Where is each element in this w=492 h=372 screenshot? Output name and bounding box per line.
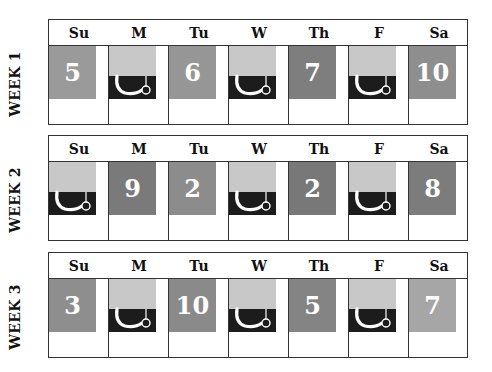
- day-header: Sa: [409, 136, 469, 161]
- day-cell: [109, 46, 169, 124]
- day-cell: [229, 46, 289, 124]
- day-header: W: [229, 20, 289, 45]
- day-cell: 5: [289, 279, 349, 357]
- week-label: WEEK 2: [0, 160, 30, 240]
- number-square: 2: [289, 162, 336, 215]
- day-cell: 9: [109, 162, 169, 240]
- number-square: 5: [49, 46, 96, 99]
- week-block: WEEK 3SuMTuWThFSa3 10 5 7: [48, 252, 468, 358]
- day-cell: 10: [169, 279, 229, 357]
- week-label: WEEK 3: [0, 277, 30, 357]
- day-cell: 7: [289, 46, 349, 124]
- day-header: Tu: [169, 253, 229, 278]
- hook-icon: [349, 279, 396, 332]
- hook-icon-square: [349, 279, 396, 332]
- hook-icon: [109, 46, 156, 99]
- day-cell: [349, 279, 409, 357]
- day-header-row: SuMTuWThFSa: [49, 136, 467, 162]
- day-header: Sa: [409, 20, 469, 45]
- number-square: 7: [409, 279, 456, 332]
- day-header: M: [109, 136, 169, 161]
- hook-icon-square: [49, 162, 96, 215]
- day-cell: 7: [409, 279, 469, 357]
- day-cell: [349, 162, 409, 240]
- hook-icon-square: [229, 279, 276, 332]
- number-square: 8: [409, 162, 456, 215]
- hook-icon: [229, 46, 276, 99]
- number-square: 10: [409, 46, 456, 99]
- day-cell: 2: [289, 162, 349, 240]
- day-cells-row: 5 6 7 10: [49, 46, 467, 124]
- day-cells-row: 92 2 8: [49, 162, 467, 240]
- day-cell: [229, 279, 289, 357]
- hook-icon-square: [109, 46, 156, 99]
- hook-icon: [49, 162, 96, 215]
- week-grid: SuMTuWThFSa 92 2 8: [48, 135, 468, 241]
- hook-icon-square: [349, 46, 396, 99]
- number-square: 9: [109, 162, 156, 215]
- day-cell: 3: [49, 279, 109, 357]
- week-grid: SuMTuWThFSa3 10 5 7: [48, 252, 468, 358]
- week-label-text: WEEK 1: [7, 51, 23, 117]
- hook-icon-square: [349, 162, 396, 215]
- hook-icon: [229, 279, 276, 332]
- week-block: WEEK 2SuMTuWThFSa 92 2 8: [48, 135, 468, 241]
- hook-icon: [229, 162, 276, 215]
- number-square: 10: [169, 279, 216, 332]
- day-header: Su: [49, 20, 109, 45]
- day-cell: [109, 279, 169, 357]
- week-label-text: WEEK 3: [7, 284, 23, 350]
- day-header-row: SuMTuWThFSa: [49, 253, 467, 279]
- week-label: WEEK 1: [0, 44, 30, 124]
- day-cell: [349, 46, 409, 124]
- day-header: F: [349, 20, 409, 45]
- number-square: 6: [169, 46, 216, 99]
- day-cell: 2: [169, 162, 229, 240]
- day-header: F: [349, 136, 409, 161]
- day-header: M: [109, 253, 169, 278]
- hook-icon: [349, 162, 396, 215]
- day-header: M: [109, 20, 169, 45]
- day-header: Th: [289, 136, 349, 161]
- number-square: 5: [289, 279, 336, 332]
- day-header: Tu: [169, 136, 229, 161]
- hook-icon-square: [109, 279, 156, 332]
- number-square: 7: [289, 46, 336, 99]
- day-header: Su: [49, 253, 109, 278]
- day-cell: [229, 162, 289, 240]
- day-header: Tu: [169, 20, 229, 45]
- day-header: Su: [49, 136, 109, 161]
- day-header: Th: [289, 253, 349, 278]
- day-header: W: [229, 253, 289, 278]
- week-label-text: WEEK 2: [7, 167, 23, 233]
- day-cell: 8: [409, 162, 469, 240]
- day-header: Th: [289, 20, 349, 45]
- day-header-row: SuMTuWThFSa: [49, 20, 467, 46]
- hook-icon-square: [229, 46, 276, 99]
- day-cell: 5: [49, 46, 109, 124]
- day-cell: 6: [169, 46, 229, 124]
- week-block: WEEK 1SuMTuWThFSa5 6 7 10: [48, 19, 468, 125]
- day-cell: 10: [409, 46, 469, 124]
- number-square: 3: [49, 279, 96, 332]
- day-header: Sa: [409, 253, 469, 278]
- day-header: F: [349, 253, 409, 278]
- day-header: W: [229, 136, 289, 161]
- week-grid: SuMTuWThFSa5 6 7 10: [48, 19, 468, 125]
- hook-icon: [109, 279, 156, 332]
- day-cell: [49, 162, 109, 240]
- day-cells-row: 3 10 5 7: [49, 279, 467, 357]
- hook-icon: [349, 46, 396, 99]
- hook-icon-square: [229, 162, 276, 215]
- number-square: 2: [169, 162, 216, 215]
